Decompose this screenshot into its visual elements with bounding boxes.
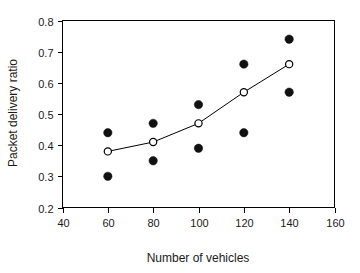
data-point-filled-circles-lower-140 bbox=[285, 88, 293, 96]
data-point-filled-circles-upper-100 bbox=[194, 100, 202, 108]
data-point-filled-circles-lower-60 bbox=[104, 172, 112, 180]
chart-figure: 406080100120140160 0.20.30.40.50.60.70.8… bbox=[0, 0, 360, 273]
x-tick-label-100: 100 bbox=[190, 217, 208, 229]
y-tick-label-0.2: 0.2 bbox=[38, 203, 53, 215]
data-point-filled-circles-lower-80 bbox=[149, 157, 157, 165]
data-point-filled-circles-upper-60 bbox=[104, 129, 112, 137]
x-tick-label-40: 40 bbox=[57, 217, 69, 229]
x-axis-title: Number of vehicles bbox=[147, 251, 250, 265]
y-tick-label-0.7: 0.7 bbox=[38, 47, 53, 59]
x-tick-label-160: 160 bbox=[326, 217, 344, 229]
data-point-open-circles-line-80 bbox=[150, 138, 157, 145]
x-tick-label-80: 80 bbox=[147, 217, 159, 229]
y-tick-label-0.8: 0.8 bbox=[38, 16, 53, 28]
data-point-filled-circles-lower-100 bbox=[194, 144, 202, 152]
chart-background bbox=[0, 0, 360, 273]
chart-svg: 406080100120140160 0.20.30.40.50.60.70.8… bbox=[0, 0, 360, 273]
y-tick-label-0.4: 0.4 bbox=[38, 140, 53, 152]
x-tick-label-140: 140 bbox=[280, 217, 298, 229]
data-point-open-circles-line-60 bbox=[104, 148, 111, 155]
data-point-open-circles-line-140 bbox=[286, 61, 293, 68]
x-tick-label-120: 120 bbox=[235, 217, 253, 229]
x-tick-label-60: 60 bbox=[102, 217, 114, 229]
data-point-open-circles-line-120 bbox=[240, 89, 247, 96]
data-point-filled-circles-lower-120 bbox=[240, 129, 248, 137]
data-point-filled-circles-upper-120 bbox=[240, 60, 248, 68]
data-point-open-circles-line-100 bbox=[195, 120, 202, 127]
y-tick-label-0.5: 0.5 bbox=[38, 109, 53, 121]
data-point-filled-circles-upper-140 bbox=[285, 35, 293, 43]
y-tick-label-0.3: 0.3 bbox=[38, 171, 53, 183]
data-point-filled-circles-upper-80 bbox=[149, 119, 157, 127]
y-axis-title: Packet delivery ratio bbox=[6, 59, 20, 167]
y-tick-label-0.6: 0.6 bbox=[38, 78, 53, 90]
